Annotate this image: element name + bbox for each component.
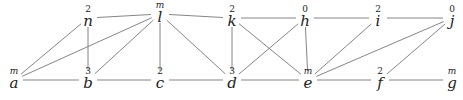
edge-b-l [95, 20, 154, 74]
edge-n-l [97, 14, 151, 17]
node-b: 3b [83, 66, 93, 92]
node-label: n [83, 12, 93, 30]
node-label: g [447, 74, 457, 92]
node-d: 3d [227, 66, 237, 92]
node-i: 2i [375, 4, 381, 30]
node-label: e [304, 74, 313, 92]
node-label: a [10, 74, 19, 92]
node-label: h [300, 12, 310, 30]
node-k: 2k [227, 4, 236, 30]
graph-diagram: ma3b2c3dme2fmg2nml2k0h2i0j [0, 0, 463, 100]
node-label: f [376, 74, 385, 92]
node-label: i [376, 12, 381, 30]
node-label: c [156, 74, 165, 92]
node-c: 2c [156, 66, 165, 92]
node-g: mg [447, 66, 457, 92]
edge-h-e [305, 27, 307, 71]
node-label: l [158, 8, 163, 26]
node-label: d [227, 74, 237, 92]
edge-j-f [387, 24, 445, 74]
node-l: ml [156, 0, 165, 26]
node-label: j [447, 12, 455, 30]
node-label: k [227, 12, 236, 30]
edge-l-d [167, 20, 226, 74]
node-a: ma [10, 66, 19, 92]
node-label: b [83, 74, 93, 92]
node-e: me [304, 66, 313, 92]
edge-i-e [315, 24, 372, 74]
node-h: 0h [300, 4, 310, 30]
node-n: 2n [83, 4, 93, 30]
edge-l-k [169, 14, 223, 17]
edge-a-n [21, 24, 81, 74]
node-j: 0j [447, 4, 455, 30]
node-f: 2f [376, 66, 385, 92]
